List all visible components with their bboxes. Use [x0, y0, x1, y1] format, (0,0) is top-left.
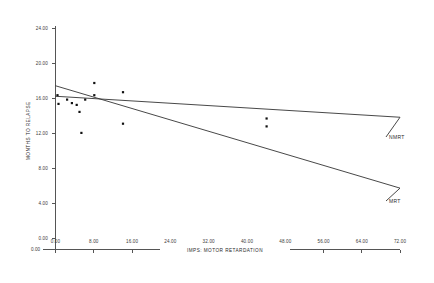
y-tick-label-8: 8.00 [38, 166, 48, 171]
series-label-nmrt: NMRT [389, 134, 405, 140]
x-tick-label-24: 24.00 [164, 239, 177, 244]
y-tick-label-20: 20.00 [36, 61, 49, 66]
data-point [80, 132, 82, 134]
series-label-mrt: MRT [389, 198, 401, 204]
y-tick-label-16: 16.00 [36, 96, 49, 101]
data-point [57, 103, 59, 105]
x-tick-label-56: 56.00 [317, 239, 330, 244]
x-tick-label-48: 48.00 [279, 239, 292, 244]
y-tick-label-4: 4.00 [38, 201, 48, 206]
scatter-plot-figure: 24.00 20.00 16.00 12.00 8.00 4.00 0.00 M… [0, 0, 434, 283]
data-point [122, 91, 124, 93]
x-tick-label-72: 72.00 [394, 239, 407, 244]
y-tick-label-24: 24.00 [36, 26, 49, 31]
origin-label: 0.00 [31, 247, 40, 252]
data-point [122, 123, 124, 125]
data-point [56, 94, 58, 96]
y-axis-ticks [52, 29, 56, 239]
y-tick-label-0: 0.00 [38, 236, 48, 241]
regression-line-mrt [56, 86, 401, 188]
data-point [71, 102, 73, 104]
data-point [266, 125, 268, 127]
data-point [93, 94, 95, 96]
data-point [84, 99, 86, 101]
x-tick-label-0: 0.00 [51, 239, 61, 244]
chart-canvas: 24.00 20.00 16.00 12.00 8.00 4.00 0.00 M… [0, 0, 434, 283]
data-point [76, 104, 78, 106]
x-axis-title: IMPS: MOTOR RETARDATION [187, 248, 263, 253]
x-tick-label-64: 64.00 [356, 239, 369, 244]
y-axis-title: MONTHS TO RELAPSE [26, 101, 31, 160]
data-points [56, 82, 267, 134]
x-tick-label-8: 8.00 [89, 239, 99, 244]
data-point [66, 99, 68, 101]
x-tick-label-32: 32.00 [203, 239, 216, 244]
data-point [78, 111, 80, 113]
regression-line-nmrt [56, 96, 401, 117]
x-tick-label-40: 40.00 [241, 239, 254, 244]
y-tick-label-12: 12.00 [36, 131, 49, 136]
x-tick-label-16: 16.00 [126, 239, 139, 244]
data-point [93, 82, 95, 84]
data-point [266, 117, 268, 119]
